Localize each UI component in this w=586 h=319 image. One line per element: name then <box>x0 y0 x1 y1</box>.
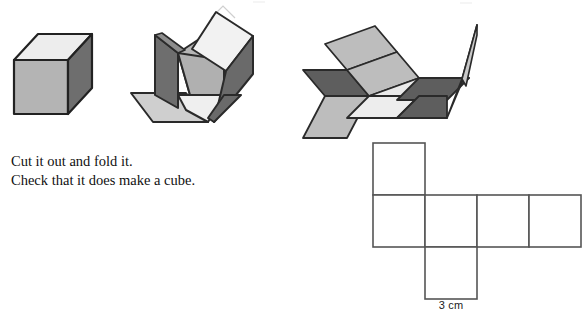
fold3-raised-flap-back <box>462 25 477 86</box>
instructions-text: Cut it out and fold it. Check that it do… <box>11 152 195 190</box>
figure-solid-cube <box>14 34 92 114</box>
cube-front-face <box>14 60 68 114</box>
net-square-top <box>373 143 425 195</box>
net-square-bottom <box>425 247 477 299</box>
instruction-line-1: Cut it out and fold it. <box>11 152 195 171</box>
net-square-right-middle <box>477 195 529 247</box>
figure-mostly-flat-net <box>303 25 477 138</box>
worksheet-page: Cut it out and fold it. Check that it do… <box>0 0 586 319</box>
crop-marks <box>211 2 472 18</box>
cube-net-diagram <box>373 143 581 299</box>
net-square-far-right-middle <box>529 195 581 247</box>
net-square-center-middle <box>425 195 477 247</box>
net-square-left-middle <box>373 195 425 247</box>
figure-partly-folded-net <box>131 12 253 122</box>
net-dimension-label: 3 cm <box>425 299 477 311</box>
instruction-line-2: Check that it does make a cube. <box>11 171 195 190</box>
